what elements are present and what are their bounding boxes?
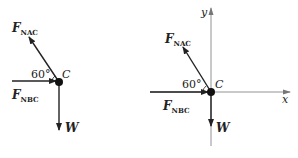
- diagram-canvas: FNAC 60° C FNBC W y x FNAC 60° C FNBC W: [0, 0, 298, 158]
- point-c-label: C: [62, 68, 71, 81]
- angle-label: 60°: [182, 78, 202, 91]
- left-diagram: FNAC 60° C FNBC W: [11, 21, 80, 135]
- angle-arc: [203, 86, 206, 92]
- angle-arc: [52, 76, 55, 81]
- fnac-label: FNAC: [11, 21, 38, 37]
- right-diagram: y x FNAC 60° C FNBC W: [150, 6, 290, 146]
- w-label: W: [216, 121, 231, 135]
- y-axis-label: y: [200, 6, 208, 19]
- point-c-label: C: [215, 78, 224, 91]
- fnbc-label: FNBC: [11, 88, 39, 104]
- fnac-label: FNAC: [164, 32, 191, 48]
- x-axis-label: x: [282, 93, 289, 106]
- fnbc-label: FNBC: [162, 99, 190, 115]
- angle-label: 60°: [31, 68, 51, 81]
- point-c-dot: [207, 88, 215, 96]
- w-label: W: [65, 121, 80, 135]
